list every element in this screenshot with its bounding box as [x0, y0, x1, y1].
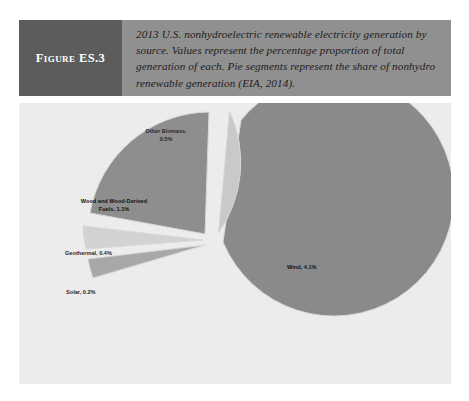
pie-label-solar: Solar, 0.2% — [66, 289, 96, 295]
chart-area: Other Biomass, 0.5% Wood and Wood-Derive… — [19, 103, 451, 384]
pie-label-other-biomass-line2: 0.5% — [160, 136, 173, 142]
figure-caption-bar: Figure ES.3 2013 U.S. nonhydroelectric r… — [19, 20, 451, 96]
pie-label-geothermal: Geothermal, 0.4% — [65, 250, 112, 256]
pie-chart: Other Biomass, 0.5% Wood and Wood-Derive… — [19, 103, 451, 384]
pie-label-wood-fuels-line2: Fuels, 1.1% — [99, 206, 129, 212]
figure-number-label: Figure ES.3 — [36, 51, 105, 66]
figure-caption-text: 2013 U.S. nonhydroelectric renewable ele… — [136, 26, 439, 91]
pie-label-wind: Wind, 4.1% — [287, 264, 317, 270]
figure-number-block: Figure ES.3 — [19, 20, 122, 96]
pie-label-wood-fuels-line1: Wood and Wood-Derived — [81, 198, 148, 204]
figure-page: Figure ES.3 2013 U.S. nonhydroelectric r… — [0, 0, 469, 401]
pie-label-other-biomass-line1: Other Biomass, — [145, 128, 187, 134]
figure-caption-block: 2013 U.S. nonhydroelectric renewable ele… — [122, 20, 451, 96]
